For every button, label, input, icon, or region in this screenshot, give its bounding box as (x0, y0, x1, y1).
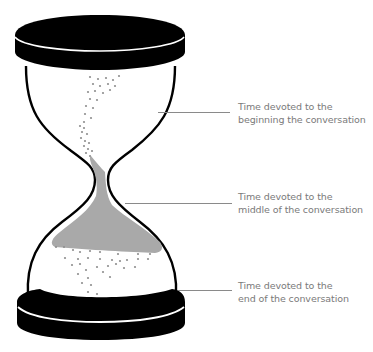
sand-pile (52, 156, 162, 253)
connector-lines (125, 113, 232, 291)
label-middle: Time devoted to the middle of the conver… (238, 190, 363, 216)
sand-grains-upper (79, 75, 120, 157)
label-middle-line1: Time devoted to the (238, 190, 363, 203)
hourglass-bottom-cap (17, 289, 185, 340)
label-beginning-line2: beginning the conversation (238, 113, 366, 126)
label-middle-line2: middle of the conversation (238, 203, 363, 216)
hourglass-top-cap (15, 15, 185, 70)
label-beginning-line1: Time devoted to the (238, 100, 366, 113)
label-end-line2: end of the conversation (238, 292, 349, 305)
label-end-line1: Time devoted to the (238, 279, 349, 292)
label-beginning: Time devoted to the beginning the conver… (238, 100, 366, 126)
label-end: Time devoted to the end of the conversat… (238, 279, 349, 305)
